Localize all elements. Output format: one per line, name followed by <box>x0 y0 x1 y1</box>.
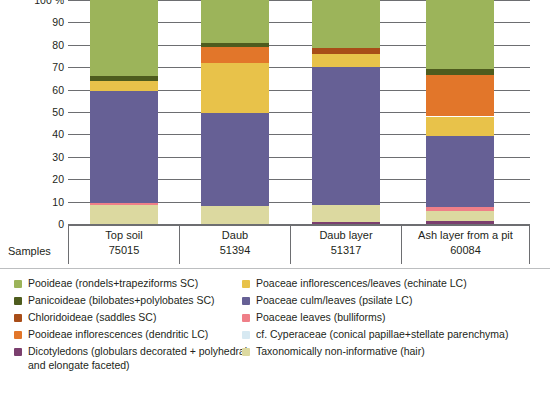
bar-segment-poaceae_echinate <box>426 117 494 136</box>
bar-segment-panicoideae_sc <box>90 76 158 80</box>
legend-swatch-chloridoideae-sc <box>14 314 22 322</box>
stacked-bar-top-soil[interactable] <box>90 0 158 224</box>
x-axis-sample-count: 51394 <box>220 243 251 257</box>
legend-column-right: Poaceae inflorescences/leaves (echinate … <box>242 277 547 362</box>
legend-column-left: Pooideae (rondels+trapeziforms SC)Panico… <box>14 277 254 376</box>
bar-segment-poaceae_echinate <box>90 81 158 91</box>
bar-segment-panicoideae_sc <box>201 43 269 47</box>
bar-segment-poaceae_echinate <box>201 63 269 113</box>
x-axis-sample-count: 51317 <box>331 243 362 257</box>
legend-swatch-pooideae-lc <box>14 331 22 339</box>
y-axis-tick-90: 90 <box>52 17 64 27</box>
bar-segment-poaceae_bulliform <box>90 203 158 205</box>
bar-segment-poaceae_echinate <box>312 54 380 67</box>
legend-swatch-dicotyledons <box>14 348 22 356</box>
x-axis-category-label: Daub layer <box>319 228 372 242</box>
y-axis-tick-labels: 100 %9080706050403020100 <box>18 0 64 224</box>
y-axis-tick-60: 60 <box>52 85 64 95</box>
legend-item[interactable]: Taxonomically non-informative (hair) <box>242 345 547 359</box>
legend-item[interactable]: Poaceae inflorescences/leaves (echinate … <box>242 277 547 291</box>
legend-swatch-poaceae-bulliform <box>242 314 250 322</box>
legend-swatch-hair <box>242 348 250 356</box>
legend-swatch-poaceae-echinate <box>242 280 250 288</box>
y-axis-tick-80: 80 <box>52 40 64 50</box>
bar-segment-panicoideae_sc <box>426 69 494 75</box>
bar-segment-poaceae_psilate <box>426 136 494 208</box>
legend-item[interactable]: cf. Cyperaceae (conical papillae+stellat… <box>242 328 547 342</box>
x-axis-category-label: Top soil <box>105 228 142 242</box>
legend-item[interactable]: Pooideae (rondels+trapeziforms SC) <box>14 277 254 291</box>
bar-segment-hair <box>90 205 158 224</box>
legend-swatch-cyperaceae <box>242 331 250 339</box>
legend-item-label: Poaceae culm/leaves (psilate LC) <box>256 294 412 308</box>
x-axis-label-table: Top soil75015Daub51394Daub layer51317Ash… <box>68 225 530 264</box>
y-axis-tick-100: 100 % <box>34 0 64 5</box>
x-axis-category-label: Ash layer from a pit <box>418 228 513 242</box>
bar-segment-pooideae_sc <box>426 0 494 69</box>
legend-item[interactable]: Poaceae culm/leaves (psilate LC) <box>242 294 547 308</box>
x-axis-cell-daub: Daub51394 <box>179 225 290 264</box>
samples-row-label: Samples <box>8 245 51 258</box>
phytolith-stacked-bar-chart: 100 %9080706050403020100 Top soil75015Da… <box>0 0 550 396</box>
y-axis-tick-10: 10 <box>52 197 64 207</box>
legend-item[interactable]: Chloridoideae (saddles SC) <box>14 311 254 325</box>
y-axis-tick-30: 30 <box>52 152 64 162</box>
stacked-bars-container <box>68 0 530 224</box>
legend-item-label: Panicoideae (bilobates+polylobates SC) <box>28 294 215 308</box>
bar-segment-poaceae_psilate <box>201 113 269 206</box>
legend-item-label: Poaceae inflorescences/leaves (echinate … <box>256 277 467 291</box>
bar-segment-chloridoideae_sc <box>312 48 380 54</box>
legend-swatch-panicoideae-sc <box>14 297 22 305</box>
legend-swatch-pooideae-sc <box>14 280 22 288</box>
bar-segment-poaceae_psilate <box>312 67 380 205</box>
legend-item-label: Pooideae (rondels+trapeziforms SC) <box>28 277 198 291</box>
x-axis-cell-top-soil: Top soil75015 <box>68 225 179 264</box>
x-axis-cell-ash-layer-from-a-pit: Ash layer from a pit60084 <box>401 225 530 264</box>
legend-item[interactable]: Pooideae inflorescences (dendritic LC) <box>14 328 254 342</box>
bar-segment-poaceae_psilate <box>90 91 158 203</box>
bar-segment-pooideae_lc <box>426 75 494 116</box>
y-axis-tick-40: 40 <box>52 129 64 139</box>
bar-segment-poaceae_bulliform <box>426 207 494 210</box>
bar-segment-hair <box>201 206 269 224</box>
legend-item-label: cf. Cyperaceae (conical papillae+stellat… <box>256 328 508 342</box>
x-axis-sample-count: 60084 <box>450 243 481 257</box>
bar-segment-pooideae_sc <box>201 0 269 43</box>
x-axis-sample-count: 75015 <box>109 243 140 257</box>
bar-segment-pooideae_lc <box>201 47 269 63</box>
legend-item-label: Dicotyledons (globulars decorated + poly… <box>28 345 254 372</box>
y-axis-tick-50: 50 <box>52 107 64 117</box>
stacked-bar-daub[interactable] <box>201 0 269 224</box>
bar-segment-hair <box>312 205 380 222</box>
y-axis-tick-70: 70 <box>52 62 64 72</box>
chart-legend: Pooideae (rondels+trapeziforms SC)Panico… <box>0 268 550 396</box>
stacked-bar-daub-layer[interactable] <box>312 0 380 224</box>
x-axis-cell-daub-layer: Daub layer51317 <box>290 225 401 264</box>
bar-segment-hair <box>426 211 494 221</box>
y-axis-tick-20: 20 <box>52 174 64 184</box>
legend-item-label: Chloridoideae (saddles SC) <box>28 311 156 325</box>
legend-item-label: Taxonomically non-informative (hair) <box>256 345 425 359</box>
stacked-bar-ash-layer-from-a-pit[interactable] <box>426 0 494 224</box>
legend-item[interactable]: Panicoideae (bilobates+polylobates SC) <box>14 294 254 308</box>
bar-segment-pooideae_sc <box>312 0 380 48</box>
legend-item[interactable]: Dicotyledons (globulars decorated + poly… <box>14 345 254 372</box>
y-axis-tick-0: 0 <box>58 219 64 229</box>
bar-segment-pooideae_sc <box>90 0 158 76</box>
legend-item-label: Poaceae leaves (bulliforms) <box>256 311 386 325</box>
legend-swatch-poaceae-psilate <box>242 297 250 305</box>
x-axis-category-label: Daub <box>222 228 248 242</box>
legend-item[interactable]: Poaceae leaves (bulliforms) <box>242 311 547 325</box>
legend-item-label: Pooideae inflorescences (dendritic LC) <box>28 328 208 342</box>
